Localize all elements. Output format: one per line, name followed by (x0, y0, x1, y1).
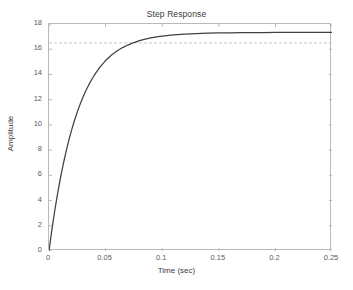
y-axis-label: Amplitude (6, 104, 15, 164)
x-tick-label: 0 (28, 253, 68, 262)
x-tick-label: 0.2 (254, 253, 294, 262)
y-tick-label: 14 (16, 68, 42, 77)
y-tick-label: 16 (16, 43, 42, 52)
step-response-figure: Step Response 024681012141618 00.050.10.… (0, 0, 353, 290)
y-tick-label: 8 (16, 144, 42, 153)
page-title: Step Response (0, 9, 353, 19)
y-tick-label: 6 (16, 169, 42, 178)
x-tick-marks (49, 24, 332, 251)
y-tick-label: 4 (16, 195, 42, 204)
x-axis-label: Time (sec) (0, 266, 353, 275)
x-tick-label: 0.1 (141, 253, 181, 262)
y-tick-label: 12 (16, 94, 42, 103)
x-tick-label: 0.05 (85, 253, 125, 262)
y-tick-marks (49, 24, 332, 251)
plot-canvas (49, 24, 332, 251)
step-response-curve (49, 32, 332, 251)
y-tick-label: 10 (16, 119, 42, 128)
y-tick-label: 2 (16, 220, 42, 229)
y-tick-label: 18 (16, 18, 42, 27)
plot-axes (48, 23, 331, 250)
x-tick-label: 0.15 (198, 253, 238, 262)
x-tick-label: 0.25 (311, 253, 351, 262)
